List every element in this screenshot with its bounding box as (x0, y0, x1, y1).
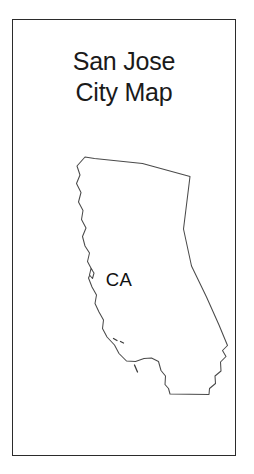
channel-island-mark-2 (121, 342, 124, 344)
san-francisco-bay-notch (90, 269, 95, 279)
state-abbrev-label: CA (106, 269, 133, 290)
map-card: San Jose City Map CA (12, 19, 236, 456)
title-line-subject: City Map (13, 77, 235, 108)
title-line-city: San Jose (13, 46, 235, 77)
channel-island-mark-3 (135, 365, 138, 372)
channel-island-mark-1 (114, 339, 118, 341)
page-title: San Jose City Map (13, 46, 235, 108)
california-outline-path (77, 157, 228, 395)
